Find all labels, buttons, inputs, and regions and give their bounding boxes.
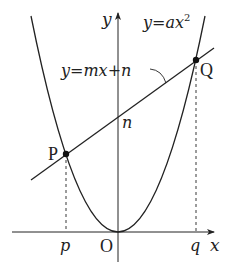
point-Q-dot	[193, 57, 199, 63]
intercept-label-n: n	[122, 113, 132, 132]
graph-svg: y y=ax2 y=mx+n n Q P p O q x	[0, 0, 239, 278]
p-tick-label: p	[60, 236, 70, 255]
diagram-canvas: y y=ax2 y=mx+n n Q P p O q x	[0, 0, 239, 278]
q-tick-label: q	[190, 236, 200, 255]
point-P-dot	[63, 151, 69, 157]
parabola-label: y=ax2	[142, 12, 190, 32]
point-Q-label: Q	[200, 60, 213, 80]
x-axis-label: x	[210, 235, 220, 255]
origin-label: O	[100, 236, 113, 256]
line-label: y=mx+n	[60, 61, 131, 80]
label-leader	[150, 69, 166, 83]
point-P-label: P	[48, 144, 58, 164]
y-axis-label: y	[101, 9, 112, 29]
